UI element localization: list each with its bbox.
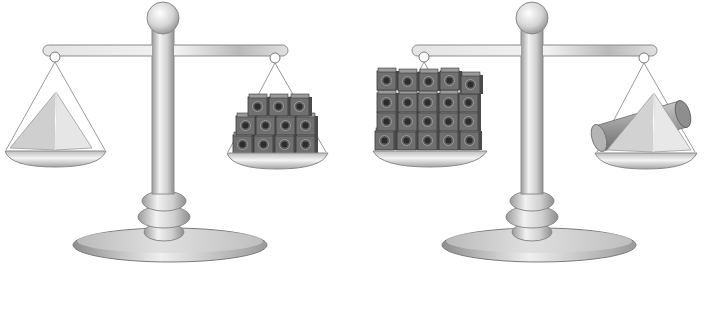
scale-2-drawing — [357, 0, 715, 311]
scale-collar — [506, 191, 558, 241]
scale-1-drawing — [0, 0, 357, 311]
balance-scale-2: 20 cubes 1 pyramid + 1 cylinder — [357, 0, 715, 311]
left-hook-icon — [419, 52, 429, 62]
balance-scale-1: 1 pyramid 11 cubes — [0, 0, 357, 311]
balance-scales-figure: 1 pyramid 11 cubes — [0, 0, 715, 311]
right-hook-icon — [270, 53, 280, 63]
pan-bowl — [373, 151, 487, 167]
right-hook-icon — [639, 53, 649, 63]
left-hook-icon — [50, 52, 60, 62]
scale-1-right-pan — [227, 63, 328, 169]
scale-1-left-pan — [5, 62, 106, 167]
scale-knob — [516, 2, 548, 34]
unit-cubes-stack — [375, 68, 483, 150]
scale-2-right-pan — [588, 63, 697, 169]
pan-bowl — [227, 153, 328, 169]
scale-2-left-pan — [373, 62, 487, 167]
scale-knob — [147, 2, 179, 34]
scale-collar — [138, 191, 190, 241]
unit-cubes-stack — [233, 94, 318, 154]
pan-bowl — [595, 153, 697, 169]
pan-bowl — [5, 151, 106, 167]
